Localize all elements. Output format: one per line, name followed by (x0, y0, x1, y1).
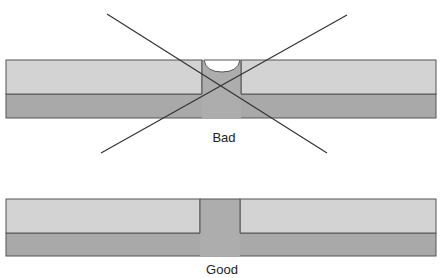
good-top-layer-right (240, 199, 436, 233)
bad-top-layer-left (6, 60, 202, 94)
bad-label: Bad (212, 130, 235, 145)
good-label: Good (206, 262, 238, 277)
good-top-layer-left (6, 199, 200, 233)
bad-top-layer-right (241, 60, 436, 94)
good-diagram (6, 199, 436, 256)
good-via-fill (200, 199, 240, 256)
